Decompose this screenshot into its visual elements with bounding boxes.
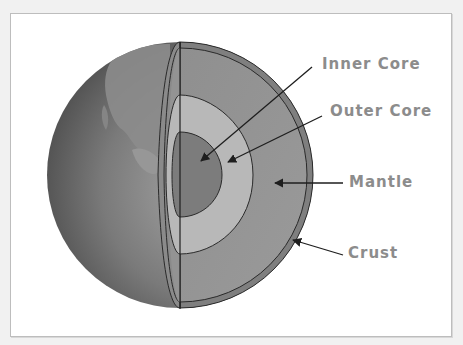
crust-label: Crust [348,246,398,261]
inner-core-label: Inner Core [322,57,421,72]
mantle-label: Mantle [349,175,413,190]
outer-core-label: Outer Core [330,104,432,119]
crust-arrow [293,240,343,255]
cross-section-face [158,42,313,309]
